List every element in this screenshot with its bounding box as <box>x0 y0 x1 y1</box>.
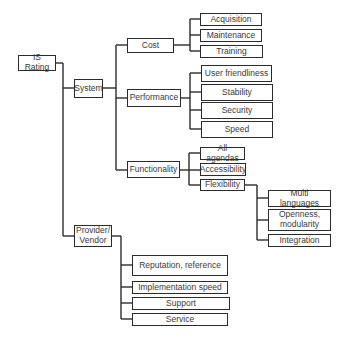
node-reputation-reference: Reputation, reference <box>132 255 228 276</box>
node-openness-modularity: Openness, modularity <box>268 209 331 231</box>
node-security: Security <box>201 102 273 119</box>
node-speed: Speed <box>201 121 273 138</box>
node-accessibility: Accessibility <box>200 163 246 176</box>
node-user-friendliness: User friendliness <box>201 65 272 82</box>
node-implementation-speed: Implementation speed <box>132 281 228 294</box>
node-multi-languages: Multi languages <box>268 190 331 207</box>
node-is-rating: IS Rating <box>18 55 56 71</box>
node-maintenance: Maintenance <box>200 29 262 42</box>
node-cost: Cost <box>127 38 174 53</box>
node-provider-vendor: Provider/ Vendor <box>74 225 112 247</box>
node-support: Support <box>132 297 230 310</box>
node-stability: Stability <box>201 84 273 101</box>
node-training: Training <box>200 45 263 58</box>
node-flexibility: Flexibility <box>200 179 245 191</box>
node-all-agendas: All agendas <box>200 147 245 160</box>
node-integration: Integration <box>268 234 331 247</box>
node-service: Service <box>132 313 228 326</box>
node-functionality: Functionality <box>127 161 180 178</box>
node-system: System <box>74 79 103 98</box>
node-acquisition: Acquisition <box>200 13 262 26</box>
node-performance: Performance <box>127 89 181 107</box>
